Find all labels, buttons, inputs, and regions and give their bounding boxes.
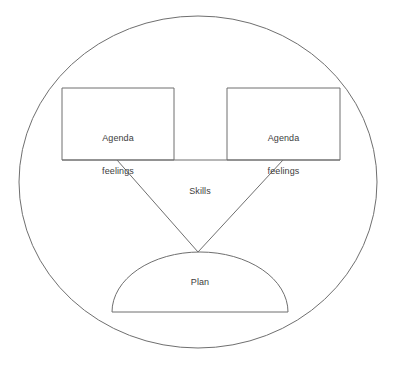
outer-ellipse: [19, 16, 377, 348]
right-connector-line: [198, 160, 283, 252]
diagram-graphics: [0, 0, 395, 367]
diagram-canvas: Agenda feelings Agenda feelings Skills P…: [0, 0, 395, 367]
node-box-left[interactable]: [62, 88, 174, 160]
node-box-right[interactable]: [227, 88, 340, 160]
node-dome-plan[interactable]: [112, 252, 288, 312]
left-connector-line: [117, 160, 198, 252]
